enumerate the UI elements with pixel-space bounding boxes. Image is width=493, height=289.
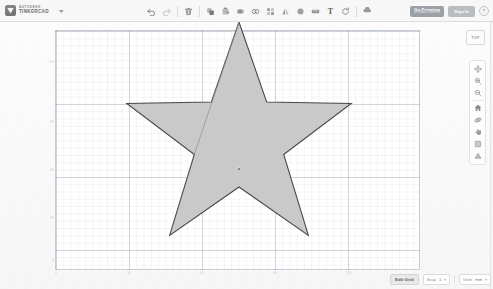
undo-icon [147, 7, 156, 16]
zoom-out-icon [474, 89, 482, 97]
trash-icon [184, 7, 193, 16]
units-value: mm [475, 277, 482, 282]
import-icon [363, 7, 372, 16]
text-icon: T [328, 7, 333, 16]
units-label: Units [463, 277, 472, 282]
brand-logo[interactable]: AUTODESK TINKERCAD ▾ [0, 5, 63, 16]
pan-button[interactable] [471, 126, 485, 138]
h-tick-3: 90 [273, 271, 277, 275]
h-tick-2: 60 [200, 271, 204, 275]
account-actions: Go Premium all it takes is one click Sig… [410, 0, 489, 22]
view-cube-top-button[interactable]: TOP [466, 30, 485, 45]
go-premium-subtitle: all it takes is one click [414, 12, 440, 15]
ruler-button[interactable] [309, 4, 322, 18]
pan-icon [474, 128, 482, 136]
home-view-icon [474, 104, 482, 112]
undo-button[interactable] [145, 4, 158, 18]
autodesk-logo-icon [5, 5, 16, 16]
fit-view-button[interactable] [471, 63, 485, 75]
status-divider [454, 275, 455, 284]
import-button[interactable] [361, 4, 374, 18]
workspace[interactable]: 120 90 60 30 0 0 30 60 90 120 TOP [0, 22, 493, 289]
help-icon[interactable]: ? [479, 6, 489, 16]
v-tick-3: 30 [50, 216, 54, 220]
ortho-view-icon [474, 140, 482, 148]
zoom-in-icon [474, 77, 482, 85]
orbit-icon [474, 116, 482, 124]
ortho-toggle-button[interactable] [471, 138, 485, 150]
chevron-down-icon[interactable]: ▾ [485, 277, 487, 282]
v-tick-4: 0 [52, 258, 54, 262]
star-shape[interactable] [55, 30, 420, 270]
duplicate-button[interactable] [204, 4, 217, 18]
horizontal-ruler: 0 30 60 90 120 [55, 271, 420, 280]
vertical-ruler: 120 90 60 30 0 [38, 30, 55, 270]
rotate-icon [341, 7, 350, 16]
redo-icon [162, 7, 171, 16]
align-button[interactable] [264, 4, 277, 18]
brand-line2: TINKERCAD [19, 10, 49, 15]
status-bar: Edit Grid Snap 1 ▾ Units mm ▾ [390, 274, 491, 285]
sign-in-button[interactable]: Sign In [448, 6, 475, 17]
group-button[interactable] [234, 4, 247, 18]
shape-layer [55, 30, 420, 270]
shape-icon [296, 7, 305, 16]
mirror-button[interactable] [279, 4, 292, 18]
tinkercad-editor: AUTODESK TINKERCAD ▾ [0, 0, 493, 289]
brand-text: AUTODESK TINKERCAD [19, 6, 49, 14]
text-tool-button[interactable]: T [324, 4, 337, 18]
chevron-down-icon[interactable]: ▾ [444, 277, 446, 282]
h-tick-0: 0 [55, 271, 57, 275]
toolbar-buttons: T [145, 0, 374, 22]
view-tools-palette [469, 60, 486, 165]
mirror-icon [281, 7, 290, 16]
snap-label: Snap [427, 277, 436, 282]
v-tick-2: 60 [50, 168, 54, 172]
delete-button[interactable] [182, 4, 195, 18]
ungroup-button[interactable] [249, 4, 262, 18]
group-icon [236, 7, 245, 16]
paste-icon [221, 7, 230, 16]
v-tick-0: 120 [48, 60, 54, 64]
h-tick-4: 120 [346, 271, 351, 275]
ungroup-icon [251, 7, 260, 16]
edit-grid-button[interactable]: Edit Grid [390, 274, 419, 285]
units-control[interactable]: Units mm ▾ [459, 274, 491, 285]
shape-button[interactable] [294, 4, 307, 18]
ruler-icon [311, 7, 320, 16]
fit-all-icon [474, 65, 482, 73]
toolbar-divider-2 [199, 6, 200, 17]
go-premium-button[interactable]: Go Premium all it takes is one click [410, 6, 444, 17]
snap-value: 1 [439, 277, 441, 282]
home-view-button[interactable] [471, 102, 485, 114]
toolbar-divider-1 [177, 6, 178, 17]
zoom-out-button[interactable] [471, 87, 485, 99]
top-toolbar: AUTODESK TINKERCAD ▾ [0, 0, 493, 22]
snap-control[interactable]: Snap 1 ▾ [423, 274, 451, 285]
h-tick-1: 30 [127, 271, 131, 275]
zoom-in-button[interactable] [471, 75, 485, 87]
perspective-view-icon [474, 152, 482, 160]
orbit-button[interactable] [471, 114, 485, 126]
redo-button[interactable] [160, 4, 173, 18]
palette-divider-1 [473, 100, 483, 101]
paste-button[interactable] [219, 4, 232, 18]
center-handle[interactable] [237, 167, 241, 171]
chevron-down-icon[interactable]: ▾ [59, 7, 64, 14]
v-tick-1: 90 [50, 120, 54, 124]
align-icon [266, 7, 275, 16]
star-polygon[interactable] [127, 22, 351, 235]
copy-icon [206, 7, 215, 16]
toolbar-divider-3 [356, 6, 357, 17]
perspective-toggle-button[interactable] [471, 150, 485, 162]
rotate-button[interactable] [339, 4, 352, 18]
